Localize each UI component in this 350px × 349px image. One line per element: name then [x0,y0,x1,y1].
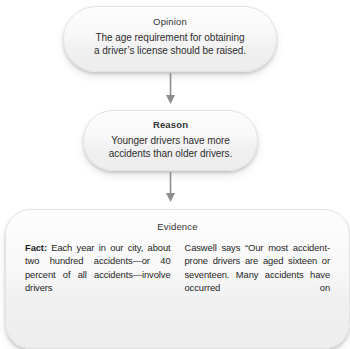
evidence-columns: Fact: Each year in our city, about two h… [6,233,349,294]
evidence-fact-label: Fact: [25,242,47,253]
evidence-quotation-text: Caswell says “Our most accident-prone dr… [185,242,331,293]
evidence-fact-text: Each year in our city, about two hundred… [25,242,171,293]
node-evidence-heading: Evidence [6,221,349,233]
evidence-column-quotation: Caswell says “Our most accident-prone dr… [185,241,331,294]
evidence-column-fact: Fact: Each year in our city, about two h… [25,241,171,294]
arrow-down-icon-2 [166,172,175,202]
node-evidence[interactable]: Evidence Fact: Each year in our city, ab… [5,209,350,349]
